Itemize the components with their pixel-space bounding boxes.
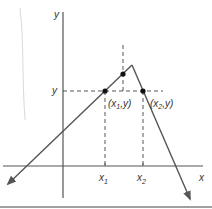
y-axis-label: y xyxy=(53,9,60,20)
point-midpoint xyxy=(120,71,125,76)
page-margin-line xyxy=(20,8,25,120)
x2-label: x2 xyxy=(136,172,146,185)
x1-label: x1 xyxy=(98,172,108,185)
point-x1-y xyxy=(102,88,107,93)
y-level-label: y xyxy=(51,85,58,96)
diagram-canvas: y x y x1 x2 (x1,y) (x2,y) xyxy=(0,0,212,209)
x-axis-label: x xyxy=(198,172,205,183)
point-x1-y-label: (x1,y) xyxy=(108,98,131,110)
point-x2-y xyxy=(140,88,145,93)
piecewise-linear-diagram: y x y x1 x2 (x1,y) (x2,y) xyxy=(0,0,212,209)
point-x2-y-label: (x2,y) xyxy=(150,98,173,110)
